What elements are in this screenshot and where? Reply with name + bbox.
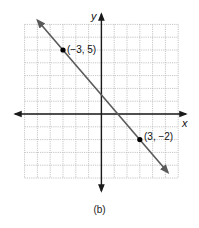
point1-label: (−3, 5) (67, 44, 96, 55)
figure-caption: (b) (0, 204, 199, 215)
point-neg3-5 (60, 47, 65, 52)
plotted-line (37, 20, 168, 172)
y-axis-label: y (90, 10, 98, 22)
coordinate-plane: (−3, 5) (3, −2) y x (0, 0, 199, 228)
x-axis-label: x (181, 117, 188, 129)
point2-label: (3, −2) (144, 131, 173, 142)
point-3-neg2 (137, 137, 142, 142)
